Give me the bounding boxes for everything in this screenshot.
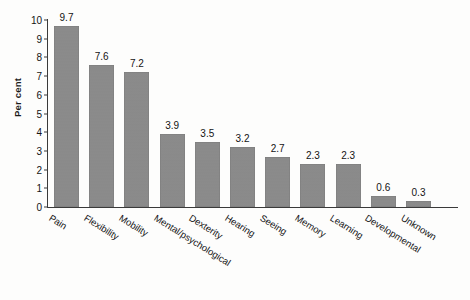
plot-area: 012345678910 9.77.67.23.93.53.22.72.32.3… <box>48 20 458 207</box>
y-tick-mark <box>44 132 48 133</box>
bar-value-label: 2.3 <box>328 150 368 161</box>
chart-page: Per cent 012345678910 9.77.67.23.93.53.2… <box>0 0 470 300</box>
bar-value-label: 0.3 <box>399 187 439 198</box>
bar <box>124 72 149 207</box>
x-tick-label: Pain <box>47 212 69 231</box>
bar <box>406 201 431 207</box>
bar-value-label: 2.7 <box>258 143 298 154</box>
x-tick-label: Learning <box>328 212 365 241</box>
y-tick-mark <box>44 76 48 77</box>
bar-value-label: 2.3 <box>293 150 333 161</box>
y-tick-label: 7 <box>2 71 48 82</box>
y-tick-label: 6 <box>2 89 48 100</box>
bar-value-label: 9.7 <box>47 12 87 23</box>
y-tick-label: 10 <box>2 15 48 26</box>
bar-value-label: 3.2 <box>223 133 263 144</box>
bar-value-label: 0.6 <box>363 182 403 193</box>
x-tick-label: Memory <box>293 212 328 240</box>
bar <box>300 164 325 207</box>
y-tick-mark <box>44 188 48 189</box>
y-tick-mark <box>44 94 48 95</box>
y-tick-mark <box>44 207 48 208</box>
y-tick-mark <box>44 38 48 39</box>
x-tick-label: Hearing <box>223 212 257 239</box>
y-tick-label: 3 <box>2 145 48 156</box>
y-tick-mark <box>44 150 48 151</box>
bar <box>160 134 185 207</box>
y-tick-label: 0 <box>2 202 48 213</box>
bar <box>230 147 255 207</box>
bar <box>89 65 114 207</box>
bar <box>54 26 79 207</box>
y-tick-label: 1 <box>2 183 48 194</box>
x-tick-label: Mobility <box>117 212 150 238</box>
bar <box>265 157 290 207</box>
y-tick-label: 9 <box>2 33 48 44</box>
x-axis-line <box>47 207 458 208</box>
bar-value-label: 3.9 <box>152 120 192 131</box>
y-tick-mark <box>44 57 48 58</box>
y-tick-mark <box>44 169 48 170</box>
bar-value-label: 3.5 <box>187 128 227 139</box>
bar-value-label: 7.6 <box>82 51 122 62</box>
bar <box>336 164 361 207</box>
y-tick-label: 5 <box>2 108 48 119</box>
y-tick-label: 4 <box>2 127 48 138</box>
y-tick-mark <box>44 113 48 114</box>
bar-value-label: 7.2 <box>117 58 157 69</box>
y-tick-label: 2 <box>2 164 48 175</box>
x-tick-label: Flexibility <box>82 212 121 242</box>
x-tick-label: Seeing <box>258 212 289 237</box>
y-tick-label: 8 <box>2 52 48 63</box>
bar <box>371 196 396 207</box>
bar <box>195 142 220 207</box>
